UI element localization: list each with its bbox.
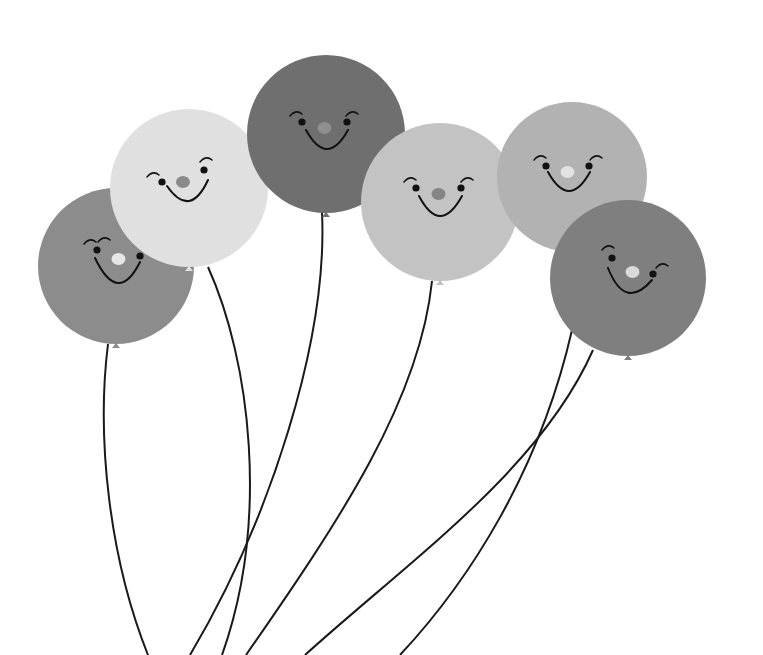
- nose: [561, 166, 575, 178]
- nose: [626, 266, 640, 278]
- balloon-string: [305, 350, 593, 655]
- balloon-body: [361, 123, 519, 281]
- eye: [343, 118, 350, 125]
- nose: [112, 253, 126, 265]
- eye: [585, 162, 592, 169]
- balloon-body: [110, 109, 268, 267]
- eye: [93, 246, 100, 253]
- nose: [318, 122, 332, 134]
- eye: [542, 162, 549, 169]
- eye: [457, 184, 464, 191]
- balloons-illustration: [0, 0, 763, 655]
- balloon-right-front: [550, 200, 706, 360]
- balloon-string: [400, 330, 572, 655]
- eye: [649, 270, 656, 277]
- eye: [136, 252, 143, 259]
- eye: [298, 118, 305, 125]
- balloon-center-light: [361, 123, 519, 285]
- balloons-canvas: [0, 0, 763, 655]
- eye: [412, 184, 419, 191]
- balloon-body: [550, 200, 706, 356]
- nose: [432, 188, 446, 200]
- balloon-string: [208, 267, 250, 655]
- nose: [176, 176, 190, 188]
- eye: [200, 166, 207, 173]
- eye: [158, 178, 165, 185]
- balloon-string: [104, 344, 148, 655]
- balloon-string: [246, 281, 432, 655]
- balloon-string: [190, 212, 322, 655]
- balloon-group: [38, 55, 706, 360]
- eye: [608, 254, 615, 261]
